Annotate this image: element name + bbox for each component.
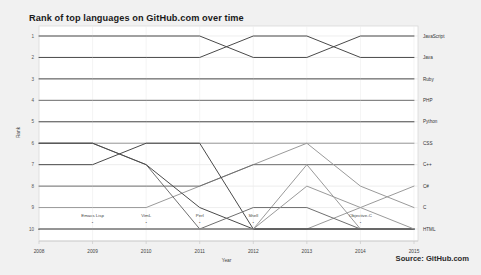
y-tick-label: 4 (31, 98, 34, 103)
inline-annotation-emacs-lisp: Emacs Lisp (81, 213, 104, 218)
y-tick-label: 7 (31, 162, 34, 167)
y-tick-label: 10 (29, 227, 35, 232)
series-end-label-html: HTML (423, 227, 436, 232)
y-tick-label: 8 (31, 184, 34, 189)
plot-panel (39, 26, 418, 241)
inline-annotation-perl: Perl (196, 213, 204, 218)
chart-canvas: 1234567891020082009201020112012201320142… (0, 0, 481, 275)
series-end-label-python: Python (423, 119, 438, 124)
x-tick-label: 2010 (141, 249, 152, 254)
x-tick-label: 2009 (87, 249, 98, 254)
y-tick-label: 1 (31, 34, 34, 39)
y-axis-title: Rank (16, 126, 21, 138)
x-tick-label: 2012 (248, 249, 259, 254)
source-caption: Source: GitHub.com (396, 254, 469, 263)
y-tick-label: 2 (31, 55, 34, 60)
y-tick-label: 3 (31, 77, 34, 82)
series-end-label-c-: C++ (423, 162, 432, 167)
series-end-label-php: PHP (423, 98, 432, 103)
series-end-label-css: CSS (423, 141, 432, 146)
x-tick-label: 2008 (34, 249, 45, 254)
inline-annotation-shell: Shell (248, 213, 258, 218)
x-tick-label: 2014 (355, 249, 366, 254)
x-axis-title: Year (222, 258, 232, 263)
line-chart: 1234567891020082009201020112012201320142… (0, 0, 481, 275)
x-tick-label: 2011 (195, 249, 206, 254)
y-tick-label: 9 (31, 205, 34, 210)
y-tick-label: 6 (31, 141, 34, 146)
inline-annotation-objective-c: Objective-C (349, 213, 372, 218)
series-end-label-ruby: Ruby (423, 77, 434, 82)
x-tick-label: 2013 (302, 249, 313, 254)
series-end-label-java: Java (423, 55, 433, 60)
chart-page: Rank of top languages on GitHub.com over… (0, 0, 481, 275)
inline-annotation-viml: VimL (141, 213, 151, 218)
series-end-label-c-: C# (423, 184, 429, 189)
series-end-label-javascript: JavaScript (423, 34, 445, 39)
y-tick-label: 5 (31, 119, 34, 124)
series-end-label-c: C (423, 205, 427, 210)
